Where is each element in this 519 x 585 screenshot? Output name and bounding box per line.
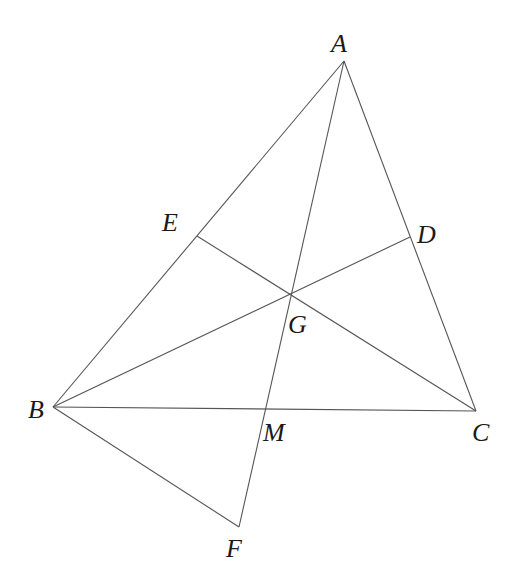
label-B: B	[28, 395, 44, 424]
segment-CE	[197, 236, 476, 411]
segment-BF	[53, 407, 239, 527]
segment-BD	[53, 237, 410, 407]
geometry-diagram: A B C D E G M F	[0, 0, 519, 585]
label-C: C	[472, 418, 490, 447]
labels: A B C D E G M F	[28, 29, 490, 563]
label-M: M	[262, 418, 286, 447]
label-G: G	[288, 310, 307, 339]
segment-AB	[53, 61, 344, 407]
segment-BC	[53, 407, 476, 411]
segment-AC	[344, 61, 476, 411]
label-D: D	[416, 220, 436, 249]
segments	[53, 61, 476, 527]
label-E: E	[161, 208, 178, 237]
label-F: F	[225, 534, 243, 563]
label-A: A	[329, 29, 347, 58]
